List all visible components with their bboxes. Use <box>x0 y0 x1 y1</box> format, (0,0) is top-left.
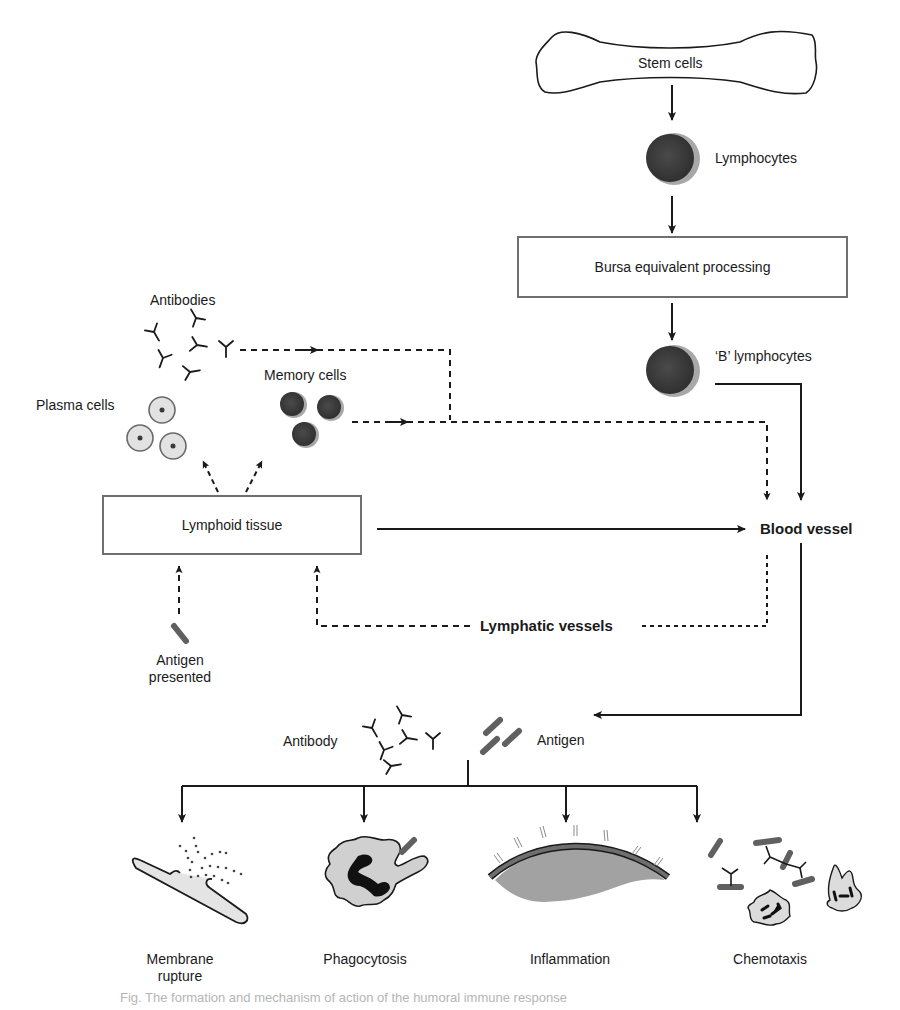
lymphoid-tissue-label: Lymphoid tissue <box>182 517 283 533</box>
figure-caption: Fig. The formation and mechanism of acti… <box>120 990 567 1005</box>
plasma-cells-icon <box>127 397 186 459</box>
antibody-label: Antibody <box>283 733 337 750</box>
dashed-lymphatic-left <box>317 566 470 626</box>
antigen-label: Antigen <box>537 732 584 749</box>
antibodies-label: Antibodies <box>150 292 215 309</box>
antigen-cluster-icon <box>483 720 519 752</box>
blood-vessel-label: Blood vessel <box>760 520 853 537</box>
lymphoid-tissue-box: Lymphoid tissue <box>102 495 362 555</box>
antigen-presented-line1: Antigen <box>140 652 220 669</box>
memory-cells-label: Memory cells <box>264 367 346 384</box>
outcome-label-line2: rupture <box>130 968 230 985</box>
antigen-presented-icon <box>174 626 186 641</box>
membrane-rupture-icon <box>133 837 248 924</box>
plasma-cells-label: Plasma cells <box>36 397 115 414</box>
antibodies-icon <box>145 306 233 380</box>
inflammation-icon <box>490 825 668 902</box>
outcome-label-line1: Inflammation <box>515 951 625 968</box>
dashed-antibodies-line <box>240 350 450 420</box>
outcome-inflammation: Inflammation <box>515 951 625 968</box>
phagocytosis-icon <box>325 837 427 907</box>
antibody-cluster-icon <box>363 703 440 774</box>
outcome-membrane-rupture: Membrane rupture <box>130 951 230 985</box>
outcome-phagocytosis: Phagocytosis <box>310 951 420 968</box>
outcome-label-line1: Chemotaxis <box>715 951 825 968</box>
arrow-blood-vessel-to-antigen <box>594 543 801 715</box>
dashed-lymphatic-right <box>640 555 767 626</box>
lymphocyte-cell-icon <box>646 133 700 185</box>
outcome-chemotaxis: Chemotaxis <box>715 951 825 968</box>
b-lymphocyte-cell-icon <box>646 345 700 397</box>
bursa-processing-box: Bursa equivalent processing <box>517 236 848 298</box>
dashed-lymphoid-to-memory <box>246 461 262 492</box>
dashed-memory-to-blood-vessel <box>352 422 767 500</box>
b-lymphocytes-label: ‘B’ lymphocytes <box>715 348 812 365</box>
humoral-immunity-diagram: Bursa equivalent processing Lymphoid tis… <box>0 0 900 1010</box>
antigen-presented-label: Antigen presented <box>140 652 220 686</box>
lymphatic-vessels-label: Lymphatic vessels <box>480 617 613 634</box>
arrow-b-lymphocytes-to-blood-vessel <box>715 384 801 500</box>
outcome-branches <box>182 760 697 822</box>
dashed-lymphoid-to-plasma <box>203 461 218 492</box>
antigen-presented-line2: presented <box>140 669 220 686</box>
memory-cells-icon <box>280 392 344 448</box>
lymphocytes-label: Lymphocytes <box>715 150 797 167</box>
bursa-processing-label: Bursa equivalent processing <box>595 259 771 275</box>
outcome-label-line1: Phagocytosis <box>310 951 420 968</box>
chemotaxis-icon <box>711 840 861 925</box>
stem-cells-label: Stem cells <box>638 55 703 72</box>
outcome-label-line1: Membrane <box>130 951 230 968</box>
